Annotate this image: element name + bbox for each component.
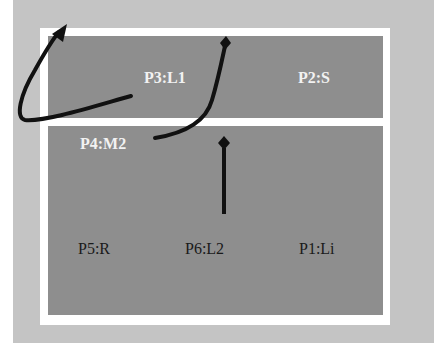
curved-line-icon xyxy=(155,46,225,138)
connectors-layer xyxy=(0,0,434,343)
curved-arrow-icon xyxy=(20,32,131,120)
diamond-end-icon xyxy=(220,36,231,50)
diamond-end-icon xyxy=(218,136,230,150)
